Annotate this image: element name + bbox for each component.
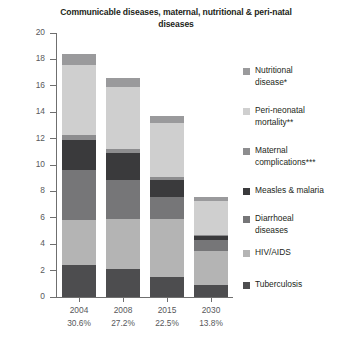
y-tick-10 xyxy=(50,165,56,166)
legend-label: Tuberculosis xyxy=(255,279,355,291)
x-label-year: 2030 xyxy=(183,304,239,317)
y-tick-6 xyxy=(50,217,56,218)
legend-label-line1: Peri-neonatal xyxy=(255,105,355,117)
y-tick-14 xyxy=(50,112,56,113)
y-tick-label-6: 6 xyxy=(0,212,45,222)
y-tick-label-10: 10 xyxy=(0,159,45,169)
y-tick-8 xyxy=(50,191,56,192)
y-tick-label-4: 4 xyxy=(0,238,45,248)
legend-label-line1: Tuberculosis xyxy=(255,279,355,291)
y-tick-label-16: 16 xyxy=(0,80,45,90)
bar-2015 xyxy=(150,33,184,297)
x-tick-2008 xyxy=(123,297,124,302)
bar-segment xyxy=(106,78,140,87)
legend-label-line1: Nutritional xyxy=(255,65,355,77)
y-tick-label-18: 18 xyxy=(0,53,45,63)
legend-label-line2: disease* xyxy=(255,77,355,89)
y-tick-18 xyxy=(50,59,56,60)
legend-swatch-icon xyxy=(243,216,250,223)
legend-swatch-icon xyxy=(243,282,250,289)
y-tick-0 xyxy=(50,297,56,298)
x-axis-label-2030: 203013.8% xyxy=(183,304,239,330)
x-label-percent: 13.8% xyxy=(183,317,239,330)
y-tick-label-20: 20 xyxy=(0,27,45,37)
bar-segment xyxy=(194,201,228,235)
y-tick-label-0: 0 xyxy=(0,291,45,301)
bar-segment xyxy=(62,140,96,170)
bar-segment xyxy=(194,197,228,201)
bar-segment xyxy=(106,153,140,179)
legend-label-line1: HIV/AIDS xyxy=(255,247,355,259)
x-tick-2030 xyxy=(211,297,212,302)
bar-segment xyxy=(62,265,96,297)
x-axis-line xyxy=(56,297,233,298)
bar-segment xyxy=(62,65,96,135)
legend-label: Nutritionaldisease* xyxy=(255,65,355,88)
legend-label-line2: complications*** xyxy=(255,157,355,169)
y-tick-label-14: 14 xyxy=(0,106,45,116)
legend-label: Measles & malaria xyxy=(255,185,355,197)
legend-swatch-icon xyxy=(243,148,250,155)
bar-segment xyxy=(62,135,96,140)
y-tick-4 xyxy=(50,244,56,245)
legend-label: Peri-neonatalmortality** xyxy=(255,105,355,128)
legend-swatch-icon xyxy=(243,68,250,75)
bar-segment xyxy=(150,197,184,219)
y-tick-12 xyxy=(50,138,56,139)
y-tick-label-8: 8 xyxy=(0,185,45,195)
bar-segment xyxy=(194,251,228,285)
legend-label-line2: mortality** xyxy=(255,117,355,129)
chart-title: Communicable diseases, maternal, nutriti… xyxy=(56,6,296,30)
bar-segment xyxy=(62,220,96,265)
bar-segment xyxy=(150,277,184,297)
legend-label: Diarrhoealdiseases xyxy=(255,213,355,236)
x-tick-2015 xyxy=(167,297,168,302)
bar-segment xyxy=(194,235,228,236)
chart-figure: Communicable diseases, maternal, nutriti… xyxy=(0,0,358,353)
bar-segment xyxy=(194,240,228,251)
bar-segment xyxy=(150,177,184,180)
legend-label-line1: Maternal xyxy=(255,145,355,157)
legend-label: Maternalcomplications*** xyxy=(255,145,355,168)
y-tick-label-2: 2 xyxy=(0,265,45,275)
bar-segment xyxy=(106,87,140,149)
bar-segment xyxy=(62,54,96,65)
legend-label-line1: Measles & malaria xyxy=(255,185,355,197)
bar-2004 xyxy=(62,33,96,297)
y-tick-20 xyxy=(50,33,56,34)
bar-segment xyxy=(106,149,140,153)
bar-segment xyxy=(150,116,184,123)
x-tick-2004 xyxy=(79,297,80,302)
bar-segment xyxy=(194,236,228,240)
bar-segment xyxy=(106,219,140,269)
legend-label: HIV/AIDS xyxy=(255,247,355,259)
legend-label-line1: Diarrhoeal xyxy=(255,213,355,225)
bar-segment xyxy=(106,180,140,220)
bar-2030 xyxy=(194,33,228,297)
legend-label-line2: diseases xyxy=(255,225,355,237)
y-tick-16 xyxy=(50,85,56,86)
legend-swatch-icon xyxy=(243,188,250,195)
bar-segment xyxy=(150,123,184,177)
bar-segment xyxy=(150,219,184,277)
y-tick-2 xyxy=(50,270,56,271)
bar-segment xyxy=(194,285,228,297)
y-tick-label-12: 12 xyxy=(0,133,45,143)
bar-segment xyxy=(106,269,140,297)
bar-segment xyxy=(62,170,96,220)
legend-swatch-icon xyxy=(243,108,250,115)
bar-2008 xyxy=(106,33,140,297)
bar-segment xyxy=(150,180,184,197)
legend-swatch-icon xyxy=(243,250,250,257)
